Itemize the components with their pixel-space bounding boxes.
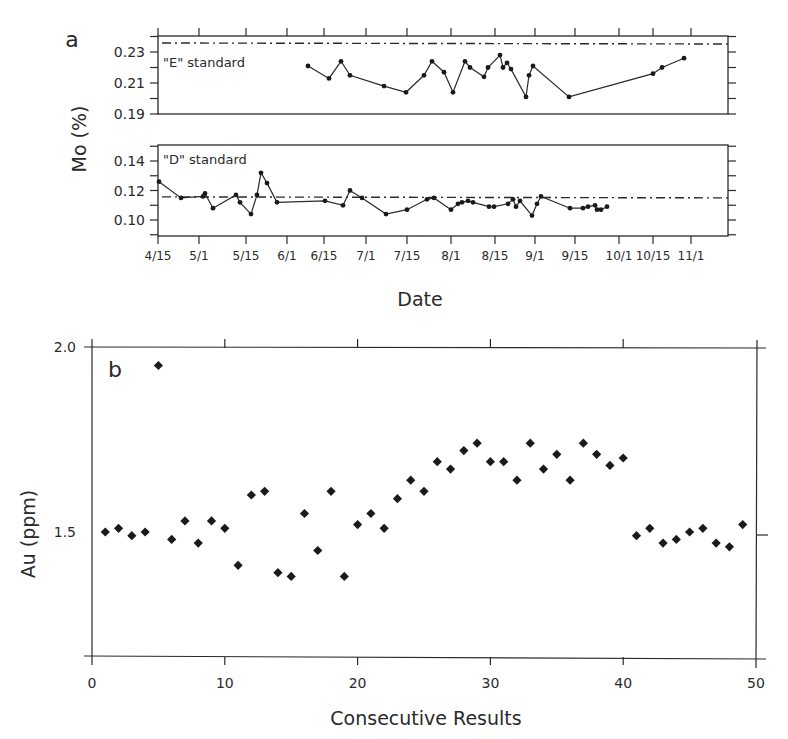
right-axis-b (756, 340, 757, 668)
series-points-au (101, 361, 748, 581)
au-axis-title: Au (ppm) (17, 490, 39, 579)
e-standard-label: "E" standard (163, 55, 245, 70)
date-tick-labels: 4/155/15/156/16/157/17/158/18/159/19/151… (145, 249, 705, 263)
svg-text:0.12: 0.12 (114, 183, 145, 199)
svg-text:2.0: 2.0 (54, 339, 76, 355)
x-ticks-d (158, 236, 691, 244)
top-axis-b (84, 347, 766, 348)
svg-text:6/1: 6/1 (277, 249, 296, 263)
d-standard-label: "D" standard (163, 152, 247, 167)
x-tick-labels-b: 01020304050 (88, 675, 765, 691)
svg-text:5/15: 5/15 (233, 249, 260, 263)
svg-text:7/15: 7/15 (394, 249, 421, 263)
series-line-e (308, 55, 684, 97)
svg-text:0.14: 0.14 (114, 153, 145, 169)
plot-frame-e (158, 36, 728, 114)
panel-a-d-standard: "D" standard 0.100.120.14 4/155/15/156/1… (68, 106, 736, 310)
panel-a-label: a (65, 27, 78, 52)
series-line-d (159, 173, 607, 216)
svg-text:10: 10 (216, 675, 234, 691)
y-tick-labels-b: 1.52.0 (54, 339, 76, 540)
panel-a-e-standard: "E" standard 0.190.210.23 a (65, 27, 736, 122)
svg-text:10/15: 10/15 (636, 249, 671, 263)
svg-text:50: 50 (747, 675, 765, 691)
svg-text:8/15: 8/15 (482, 249, 509, 263)
panel-b-label: b (108, 357, 122, 382)
y-tick-labels-e: 0.190.210.23 (114, 44, 145, 122)
svg-text:0.21: 0.21 (114, 75, 145, 91)
svg-text:9/1: 9/1 (525, 249, 544, 263)
svg-text:20: 20 (349, 675, 367, 691)
svg-text:6/15: 6/15 (311, 249, 338, 263)
svg-text:11/1: 11/1 (678, 249, 705, 263)
svg-text:0.23: 0.23 (114, 44, 145, 60)
svg-text:1.5: 1.5 (54, 524, 76, 540)
series-points-d (157, 170, 610, 218)
svg-text:40: 40 (614, 675, 632, 691)
svg-text:5/1: 5/1 (189, 249, 208, 263)
reference-line-d (162, 197, 728, 198)
bottom-axis-b (84, 656, 766, 659)
svg-text:0: 0 (88, 675, 97, 691)
svg-text:10/1: 10/1 (606, 249, 633, 263)
y-tick-labels-d: 0.100.120.14 (114, 153, 145, 228)
figure: "E" standard 0.190.210.23 a "D" standard… (0, 0, 788, 739)
date-axis-title: Date (397, 288, 442, 310)
panel-b-au: 01020304050 1.52.0 b Au (ppm) Consecutiv… (17, 339, 768, 729)
ticks-b (225, 339, 768, 665)
svg-text:8/1: 8/1 (441, 249, 460, 263)
svg-text:9/15: 9/15 (562, 249, 589, 263)
top-ticks-e (158, 28, 691, 36)
mo-axis-title: Mo (%) (68, 106, 90, 173)
consecutive-results-axis-title: Consecutive Results (330, 707, 521, 729)
svg-text:7/1: 7/1 (356, 249, 375, 263)
reference-line-e (162, 43, 728, 44)
svg-text:4/15: 4/15 (145, 249, 172, 263)
svg-text:0.10: 0.10 (114, 212, 145, 228)
svg-text:30: 30 (481, 675, 499, 691)
svg-text:0.19: 0.19 (114, 106, 145, 122)
